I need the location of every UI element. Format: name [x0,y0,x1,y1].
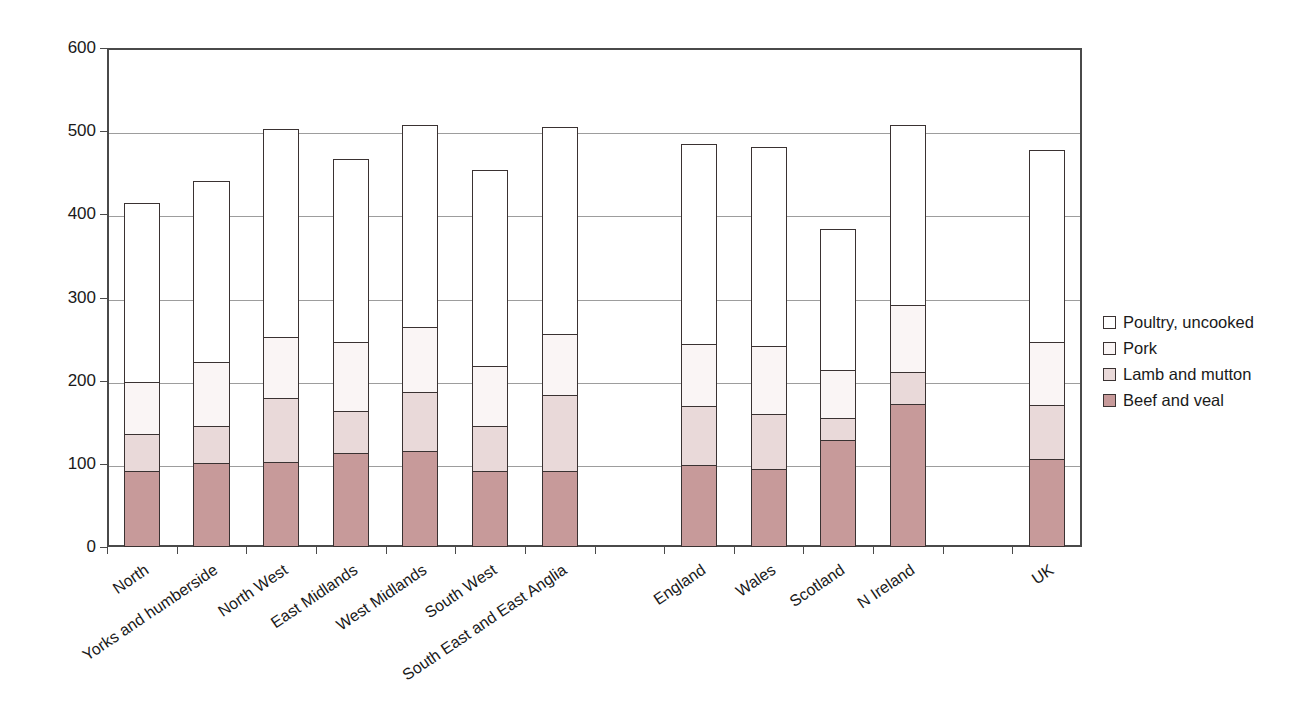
bar-group[interactable] [472,48,508,547]
legend-label: Lamb and mutton [1123,365,1251,383]
bar-segment[interactable] [890,125,926,305]
bar-segment[interactable] [751,346,787,414]
bar-segment[interactable] [263,462,299,547]
legend-label: Pork [1123,339,1157,357]
y-tick-mark [100,547,107,548]
bar-segment[interactable] [681,465,717,547]
bar-segment[interactable] [681,406,717,465]
bar-group[interactable] [333,48,369,547]
bar-segment[interactable] [1029,150,1065,341]
y-tick-mark [100,464,107,465]
bar-segment[interactable] [820,229,856,370]
legend: Poultry, uncookedPorkLamb and muttonBeef… [1103,309,1308,413]
bar-segment[interactable] [542,334,578,395]
bar-segment[interactable] [1029,459,1065,547]
bar-segment[interactable] [472,471,508,547]
x-axis-labels: NorthYorks and humbersideNorth WestEast … [0,547,1314,726]
bar-segment[interactable] [402,392,438,450]
legend-label: Poultry, uncooked [1123,313,1254,331]
legend-item[interactable]: Pork [1103,335,1308,361]
bar-group[interactable] [402,48,438,547]
bar-segment[interactable] [263,398,299,462]
legend-item[interactable]: Beef and veal [1103,387,1308,413]
bar-segment[interactable] [542,471,578,548]
bar-segment[interactable] [681,344,717,406]
y-axis: 0100200300400500600 [40,48,96,547]
bar-segment[interactable] [890,404,926,547]
bar-group[interactable] [751,48,787,547]
y-tick-label: 200 [50,372,96,389]
bar-segment[interactable] [820,418,856,440]
bar-group[interactable] [820,48,856,547]
bar-group[interactable] [193,48,229,547]
bar-segment[interactable] [193,426,229,463]
y-tick-mark [100,48,107,49]
legend-swatch-icon [1103,342,1116,355]
bar-group[interactable] [542,48,578,547]
bar-segment[interactable] [890,305,926,372]
y-tick-label: 600 [50,39,96,56]
legend-swatch-icon [1103,394,1116,407]
bars-layer [107,48,1082,547]
bar-segment[interactable] [542,127,578,334]
bar-segment[interactable] [751,469,787,547]
bar-segment[interactable] [890,372,926,404]
bar-segment[interactable] [402,125,438,327]
bar-segment[interactable] [193,362,229,425]
bar-segment[interactable] [193,463,229,547]
bar-group[interactable] [890,48,926,547]
bar-segment[interactable] [820,370,856,418]
bar-segment[interactable] [333,159,369,342]
y-tick-mark [100,131,107,132]
bar-segment[interactable] [124,471,160,548]
bar-segment[interactable] [124,382,160,434]
bar-segment[interactable] [751,147,787,346]
bar-segment[interactable] [263,129,299,337]
y-tick-label: 100 [50,455,96,472]
bar-segment[interactable] [472,366,508,427]
bar-segment[interactable] [681,144,717,344]
y-tick-mark [100,381,107,382]
stacked-bar-chart: 0100200300400500600 NorthYorks and humbe… [0,0,1314,726]
bar-group[interactable] [1029,48,1065,547]
bar-group[interactable] [263,48,299,547]
y-tick-label: 300 [50,289,96,306]
bar-group[interactable] [124,48,160,547]
bar-segment[interactable] [124,434,160,471]
bar-group[interactable] [681,48,717,547]
bar-segment[interactable] [402,327,438,393]
bar-segment[interactable] [751,414,787,469]
legend-item[interactable]: Lamb and mutton [1103,361,1308,387]
legend-label: Beef and veal [1123,391,1224,409]
bar-segment[interactable] [263,337,299,399]
bar-segment[interactable] [333,453,369,547]
bar-segment[interactable] [333,411,369,453]
y-tick-label: 500 [50,122,96,139]
y-tick-label: 400 [50,205,96,222]
bar-segment[interactable] [820,440,856,547]
bar-segment[interactable] [402,451,438,547]
legend-swatch-icon [1103,368,1116,381]
bar-segment[interactable] [472,426,508,471]
bar-segment[interactable] [124,203,160,383]
y-tick-mark [100,214,107,215]
bar-segment[interactable] [1029,405,1065,459]
legend-item[interactable]: Poultry, uncooked [1103,309,1308,335]
bar-segment[interactable] [1029,342,1065,405]
legend-swatch-icon [1103,316,1116,329]
bar-segment[interactable] [333,342,369,410]
bar-segment[interactable] [472,170,508,365]
bar-segment[interactable] [542,395,578,471]
bar-segment[interactable] [193,181,229,362]
y-tick-mark [100,298,107,299]
